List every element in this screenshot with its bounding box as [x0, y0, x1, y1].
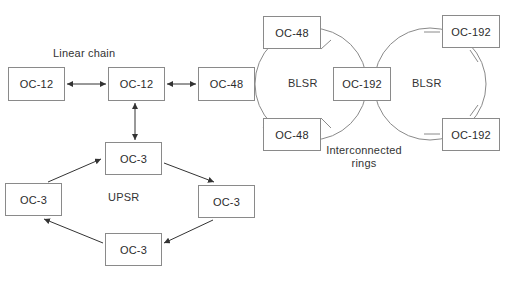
node-blsr-right-oc192-top[interactable]: OC-192: [442, 15, 500, 48]
diagram-edges: [0, 0, 517, 282]
edge-upsr-top-to-right: [164, 163, 214, 182]
node-upsr-oc3-right[interactable]: OC-3: [198, 185, 255, 218]
stub-blsr1-oc48bottom-right: [321, 118, 331, 128]
node-upsr-oc3-left[interactable]: OC-3: [5, 183, 62, 216]
node-label: OC-3: [20, 194, 47, 206]
node-upsr-oc3-top[interactable]: OC-3: [105, 142, 162, 175]
label-blsr-left: BLSR: [288, 77, 318, 90]
node-linear-oc48[interactable]: OC-48: [198, 67, 255, 101]
node-label: OC-3: [120, 153, 147, 165]
stub-blsr2-oc192top-down: [470, 50, 478, 62]
node-label: OC-192: [451, 26, 491, 38]
node-blsr-left-oc48-bottom[interactable]: OC-48: [263, 118, 321, 151]
node-linear-oc12-b[interactable]: OC-12: [108, 67, 165, 101]
node-label: OC-48: [275, 27, 308, 39]
stub-blsr1-oc48top-right: [321, 40, 331, 49]
node-label: OC-192: [342, 78, 382, 90]
node-blsr-left-oc48-top[interactable]: OC-48: [263, 16, 321, 49]
label-upsr: UPSR: [108, 191, 139, 204]
node-label: OC-12: [120, 78, 153, 90]
node-label: OC-3: [120, 244, 147, 256]
node-label: OC-48: [210, 78, 243, 90]
edge-upsr-left-to-top: [48, 159, 101, 182]
node-label: OC-48: [275, 129, 308, 141]
node-label: OC-12: [20, 78, 53, 90]
node-blsr-right-oc192-bottom[interactable]: OC-192: [442, 118, 500, 151]
label-interconnected-rings: Interconnected rings: [318, 144, 410, 170]
label-linear-chain: Linear chain: [53, 47, 115, 60]
edge-upsr-right-to-bottom: [164, 220, 213, 243]
network-topology-diagram: OC-12 OC-12 OC-48 OC-48 OC-48 OC-192 OC-…: [0, 0, 517, 282]
node-label: OC-192: [451, 129, 491, 141]
label-blsr-right: BLSR: [412, 77, 442, 90]
node-linear-oc12-a[interactable]: OC-12: [8, 67, 65, 101]
node-center-oc192[interactable]: OC-192: [333, 67, 391, 101]
edge-upsr-bottom-to-left: [44, 219, 103, 243]
node-label: OC-3: [213, 196, 240, 208]
node-upsr-oc3-bottom[interactable]: OC-3: [105, 233, 162, 266]
